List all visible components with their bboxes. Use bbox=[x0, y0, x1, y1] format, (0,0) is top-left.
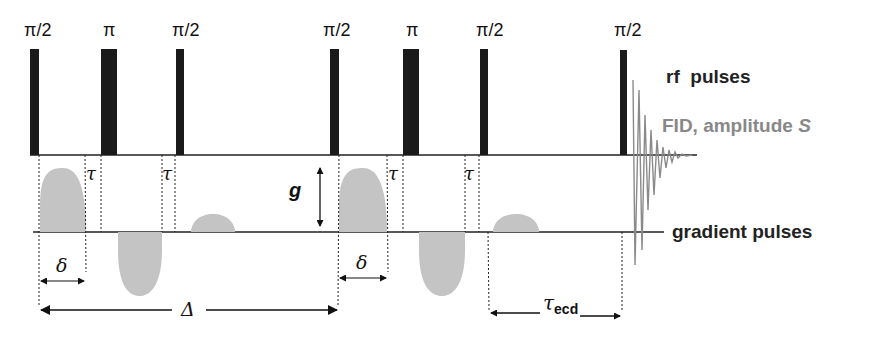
rf-pulses-label: rf pulses bbox=[666, 66, 750, 87]
gradient-lobe-5 bbox=[419, 232, 465, 296]
pulse-sequence-diagram: π/2 π π/2 π/2 π π/2 π/2 τ τ τ τ g δ δ Δ bbox=[0, 0, 872, 338]
g-label: g bbox=[288, 179, 301, 201]
pulse-label-7: π/2 bbox=[614, 20, 641, 40]
pulse-label-4: π/2 bbox=[323, 20, 350, 40]
pulse-label-1: π/2 bbox=[24, 20, 51, 40]
delta-label-2: δ bbox=[356, 251, 367, 273]
rf-pulse-6 bbox=[480, 49, 488, 155]
gradient-lobe-6 bbox=[493, 214, 539, 232]
rf-pulse-7 bbox=[620, 50, 627, 155]
pulse-label-3: π/2 bbox=[172, 20, 199, 40]
tau-label-4: τ bbox=[464, 163, 475, 184]
rf-pulse-4 bbox=[330, 49, 339, 155]
gradient-lobe-4 bbox=[339, 168, 387, 232]
rf-pulse-1 bbox=[30, 49, 39, 155]
tau-label-3: τ bbox=[388, 163, 399, 184]
pulse-label-2: π bbox=[103, 20, 115, 40]
gradient-pulses-label: gradient pulses bbox=[672, 221, 812, 242]
rf-pulse-2 bbox=[101, 49, 117, 155]
rf-pulse-5 bbox=[403, 49, 419, 155]
delta-label-1: δ bbox=[56, 254, 67, 276]
gradient-lobe-1 bbox=[40, 168, 86, 232]
gradient-lobe-2 bbox=[118, 232, 162, 296]
pulse-label-5: π bbox=[406, 20, 418, 40]
pulse-label-6: π/2 bbox=[476, 20, 503, 40]
tau-ecd-label: τecd bbox=[543, 291, 578, 317]
fid-label: FID, amplitude S bbox=[662, 115, 811, 136]
pulse-labels: π/2 π π/2 π/2 π π/2 π/2 bbox=[24, 20, 641, 40]
gradient-lobe-3 bbox=[191, 214, 235, 232]
tau-label-2: τ bbox=[162, 163, 173, 184]
big-delta-label: Δ bbox=[180, 298, 195, 320]
rf-pulse-3 bbox=[176, 49, 184, 155]
tau-label-1: τ bbox=[86, 163, 97, 184]
rf-pulses bbox=[30, 49, 627, 155]
